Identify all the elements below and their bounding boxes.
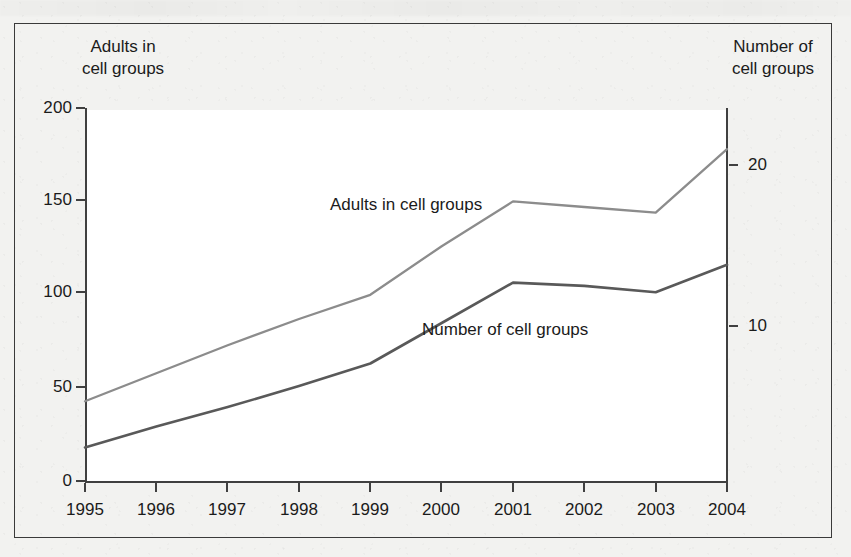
plot-area-background — [86, 110, 728, 482]
y-axis-left-title: Adults in cell groups — [58, 36, 188, 81]
series-annotation-groups: Number of cell groups — [422, 320, 588, 340]
x-axis-line — [85, 481, 728, 483]
x-tick-label-2001: 2001 — [473, 500, 553, 520]
y-axis-right-title: Number of cell groups — [708, 36, 838, 81]
y-tick-right-20 — [729, 164, 738, 166]
x-tick-label-1995: 1995 — [45, 500, 125, 520]
y-tick-left-150 — [76, 199, 85, 201]
x-tick-1997 — [226, 483, 228, 492]
y-tick-label-left-150: 150 — [0, 190, 72, 210]
x-tick-label-2002: 2002 — [544, 500, 624, 520]
x-tick-1995 — [84, 483, 86, 492]
y-tick-label-right-10: 10 — [748, 316, 808, 336]
y-tick-left-50 — [76, 386, 85, 388]
x-tick-label-1999: 1999 — [330, 500, 410, 520]
x-tick-label-2003: 2003 — [616, 500, 696, 520]
page-bleed-through-strip — [0, 0, 851, 16]
y-tick-label-left-200: 200 — [0, 98, 72, 118]
x-tick-label-2004: 2004 — [687, 500, 767, 520]
y-tick-label-left-0: 0 — [0, 471, 72, 491]
x-tick-label-2000: 2000 — [401, 500, 481, 520]
y-tick-label-left-50: 50 — [0, 377, 72, 397]
x-tick-1996 — [155, 483, 157, 492]
y-tick-label-left-100: 100 — [0, 282, 72, 302]
y-axis-left-line — [85, 108, 87, 483]
y-tick-left-200 — [76, 107, 85, 109]
series-annotation-adults: Adults in cell groups — [330, 195, 482, 215]
x-tick-label-1996: 1996 — [116, 500, 196, 520]
y-tick-left-0 — [76, 480, 85, 482]
y-tick-right-10 — [729, 325, 738, 327]
x-tick-2002 — [583, 483, 585, 492]
x-tick-2004 — [726, 483, 728, 492]
y-tick-left-100 — [76, 291, 85, 293]
x-tick-2000 — [440, 483, 442, 492]
x-tick-2001 — [512, 483, 514, 492]
y-tick-label-right-20: 20 — [748, 155, 808, 175]
y-axis-right-line — [726, 108, 728, 483]
x-tick-1999 — [369, 483, 371, 492]
x-tick-label-1998: 1998 — [259, 500, 339, 520]
x-tick-1998 — [298, 483, 300, 492]
figure-page: Adults in cell groups Number of cell gro… — [0, 0, 851, 557]
x-tick-label-1997: 1997 — [187, 500, 267, 520]
x-tick-2003 — [655, 483, 657, 492]
